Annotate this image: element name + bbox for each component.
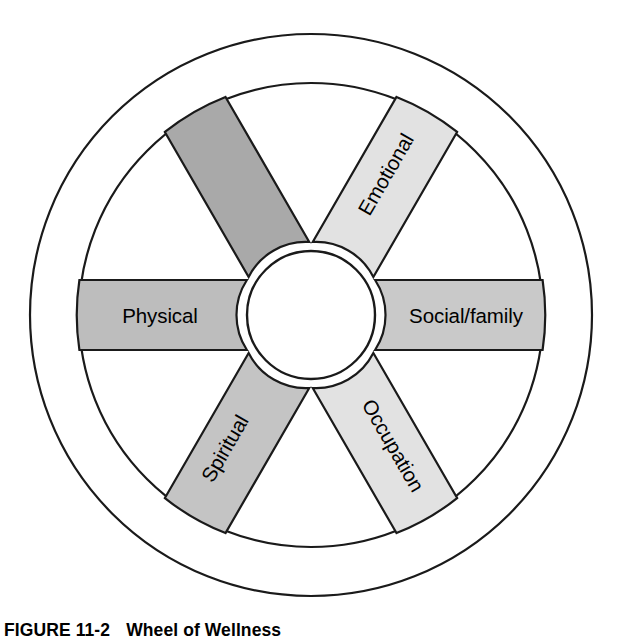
spoke-social-family[interactable]: Social/family [375, 280, 545, 350]
figure-caption-title: Wheel of Wellness [126, 620, 281, 640]
figure-container: Physical Mental Emotional [0, 0, 618, 644]
wheel-of-wellness-diagram: Physical Mental Emotional [0, 0, 618, 644]
spoke-social-family-label: Social/family [409, 304, 524, 327]
figure-caption-number: FIGURE 11-2 [4, 620, 110, 640]
figure-caption: FIGURE 11-2Wheel of Wellness [4, 620, 614, 641]
spoke-physical-label: Physical [122, 304, 198, 327]
spoke-emotional[interactable]: Emotional [313, 95, 459, 277]
spoke-physical[interactable]: Physical [77, 280, 247, 350]
spoke-spiritual-shape[interactable] [164, 95, 310, 277]
wheel-hub[interactable] [247, 251, 375, 379]
